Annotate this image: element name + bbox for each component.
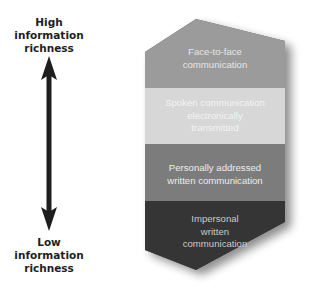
band-line: communication [145, 238, 285, 251]
band-line: Spoken communication [145, 97, 285, 110]
band-line: Impersonal [145, 213, 285, 226]
band-line: transmitted [145, 122, 285, 135]
band-spoken-electronic-text: Spoken communication electronically tran… [145, 97, 285, 135]
band-line: written [145, 226, 285, 239]
band-impersonal-text: Impersonal written communication [145, 213, 285, 251]
label-line: richness [2, 42, 96, 55]
label-line: Low [2, 236, 96, 249]
band-line: written communication [145, 175, 285, 188]
label-line: information [2, 29, 96, 42]
double-arrow-icon [41, 56, 57, 231]
band-line: communication [145, 59, 285, 72]
band-line: electronically [145, 110, 285, 123]
label-line: richness [2, 262, 96, 275]
band-line: Personally addressed [145, 162, 285, 175]
band-line: Face-to-face [145, 46, 285, 59]
label-line: High [2, 16, 96, 29]
label-line: information [2, 249, 96, 262]
band-personally-addressed-text: Personally addressed written communicati… [145, 162, 285, 187]
high-richness-label: High information richness [2, 16, 96, 55]
band-face-to-face-text: Face-to-face communication [145, 46, 285, 71]
low-richness-label: Low information richness [2, 236, 96, 275]
